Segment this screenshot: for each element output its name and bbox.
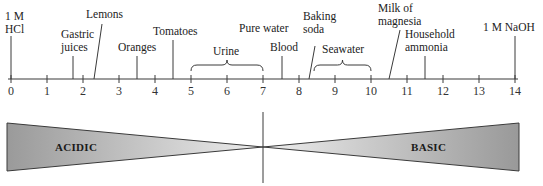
substance-label: Household [405,28,455,40]
substance-label: HCl [5,23,24,35]
tick-label: 9 [332,84,338,98]
substance-gastric-juices: Gastricjuices [60,28,94,79]
tick-label: 4 [152,84,158,98]
tick-label: 12 [437,84,449,98]
substance-label: Baking [303,10,336,23]
substance-household-ammonia: Householdammonia [405,28,455,79]
tick-label: 7 [260,84,266,98]
acidic-wedge [7,123,263,171]
tick-label: 5 [188,84,194,98]
marker-line [309,46,315,79]
tick-label: 0 [8,84,14,98]
substance-label: 1 M [5,10,24,22]
substance-label: 1 M NaOH [483,21,535,33]
marker-line [94,24,102,79]
marker-line [389,30,400,79]
range-brace [191,60,263,71]
substance-label: Tomatoes [153,25,198,37]
tick-label: 10 [365,84,377,98]
substance-label: Milk of [378,2,413,14]
ph-scale-diagram: 01234567891011121314 1 MHClGastricjuices… [0,0,543,186]
substance-1-m-naoh: 1 M NaOH [483,21,535,79]
substance-label: juices [60,41,88,54]
acidic-label: ACIDIC [55,141,97,153]
substance-markers: 1 MHClGastricjuicesLemonsOrangesTomatoes… [5,2,535,79]
basic-wedge [263,123,519,171]
substance-pure-water: Pure water [239,22,289,34]
substance-label: Blood [270,41,298,53]
tick-label: 13 [473,84,485,98]
substance-oranges: Oranges [118,41,157,79]
tick-label: 3 [116,84,122,98]
substance-blood: Blood [270,41,298,79]
tick-label: 14 [509,84,521,98]
substance-label: Pure water [239,22,289,34]
substance-label: Oranges [118,41,157,54]
substance-urine: Urine [191,45,263,71]
substance-1-m-hcl: 1 MHCl [5,10,24,79]
substance-label: magnesia [378,15,421,28]
tick-label: 1 [44,84,50,98]
basic-label: BASIC [411,141,446,153]
tick-label: 8 [296,84,302,98]
acid-base-wedges: ACIDIC BASIC [7,112,519,183]
tick-label: 11 [401,84,413,98]
substance-label: Lemons [86,8,124,20]
ph-axis: 01234567891011121314 [8,75,521,98]
range-brace [314,60,371,71]
substance-label: Gastric [61,28,94,40]
substance-label: soda [303,23,324,35]
substance-label: Urine [213,45,239,57]
substance-label: Seawater [322,43,364,55]
substance-seawater: Seawater [314,43,371,71]
tick-label: 6 [224,84,230,98]
substance-label: ammonia [405,41,448,53]
tick-label: 2 [80,84,86,98]
